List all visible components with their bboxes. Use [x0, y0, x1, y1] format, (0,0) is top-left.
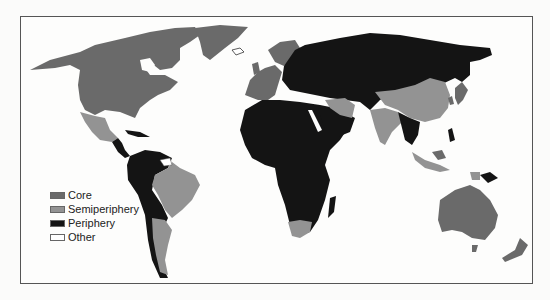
- region-western-europe: [245, 65, 282, 100]
- region-japan: [455, 82, 468, 105]
- world-map: [0, 0, 550, 300]
- legend-item-other: Other: [50, 230, 139, 244]
- region-central-america: [112, 138, 130, 158]
- region-greenland: [195, 25, 248, 60]
- region-mexico: [80, 112, 118, 142]
- legend-item-periphery: Periphery: [50, 216, 139, 230]
- map-legend: Core Semiperiphery Periphery Other: [50, 188, 139, 244]
- other-swatch: [50, 234, 65, 241]
- legend-label: Core: [68, 189, 92, 201]
- region-new-zealand: [502, 238, 528, 262]
- region-south-africa: [288, 220, 312, 238]
- core-swatch: [50, 192, 65, 199]
- region-india: [370, 108, 402, 145]
- semiperiphery-swatch: [50, 206, 65, 213]
- legend-label: Other: [68, 231, 96, 243]
- periphery-swatch: [50, 220, 65, 227]
- region-north-america: [30, 27, 200, 118]
- legend-label: Periphery: [68, 217, 115, 229]
- legend-item-semiperiphery: Semiperiphery: [50, 202, 139, 216]
- region-australia: [438, 185, 498, 240]
- legend-label: Semiperiphery: [68, 203, 139, 215]
- legend-item-core: Core: [50, 188, 139, 202]
